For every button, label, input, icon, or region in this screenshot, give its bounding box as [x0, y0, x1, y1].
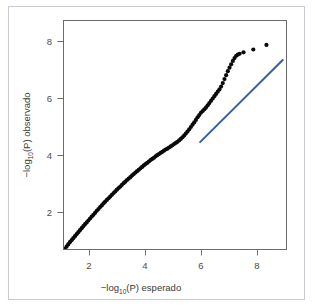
x-axis-title-main: −log	[101, 282, 119, 293]
data-point	[251, 47, 255, 51]
data-point	[241, 50, 245, 54]
plot-box	[64, 21, 287, 250]
x-axis-title-rest: (P) esperado	[126, 282, 181, 293]
y-tick-label-3: 6	[47, 93, 52, 104]
data-point	[224, 73, 228, 77]
y-tick-label-1: 2	[47, 207, 52, 218]
qq-plot-figure: 2 4 6 8 2 4 6 8 −log10(P) esperado −log1…	[0, 0, 315, 308]
data-point	[264, 43, 268, 47]
svg-text:−log10(P) observado: −log10(P) observado	[21, 92, 34, 177]
x-tick-label-3: 6	[198, 260, 203, 271]
data-point	[237, 52, 241, 56]
y-tick-label-2: 4	[47, 150, 52, 161]
y-axis-title-main: −log	[21, 159, 32, 177]
y-axis-title: −log10(P) observado	[21, 92, 34, 177]
y-axis-ticks	[58, 42, 64, 213]
x-axis-ticks	[90, 250, 258, 256]
data-point	[221, 81, 225, 85]
y-tick-label-4: 8	[47, 36, 52, 47]
x-axis-title: −log10(P) esperado	[101, 282, 181, 295]
x-tick-label-1: 2	[86, 260, 91, 271]
x-tick-label-2: 4	[142, 260, 147, 271]
data-point	[222, 77, 226, 81]
svg-text:−log10(P) esperado: −log10(P) esperado	[101, 282, 181, 295]
qq-plot-canvas: 2 4 6 8 2 4 6 8 −log10(P) esperado −log1…	[0, 0, 315, 308]
y-axis-title-rest: (P) observado	[21, 92, 32, 152]
x-tick-label-4: 8	[254, 260, 259, 271]
